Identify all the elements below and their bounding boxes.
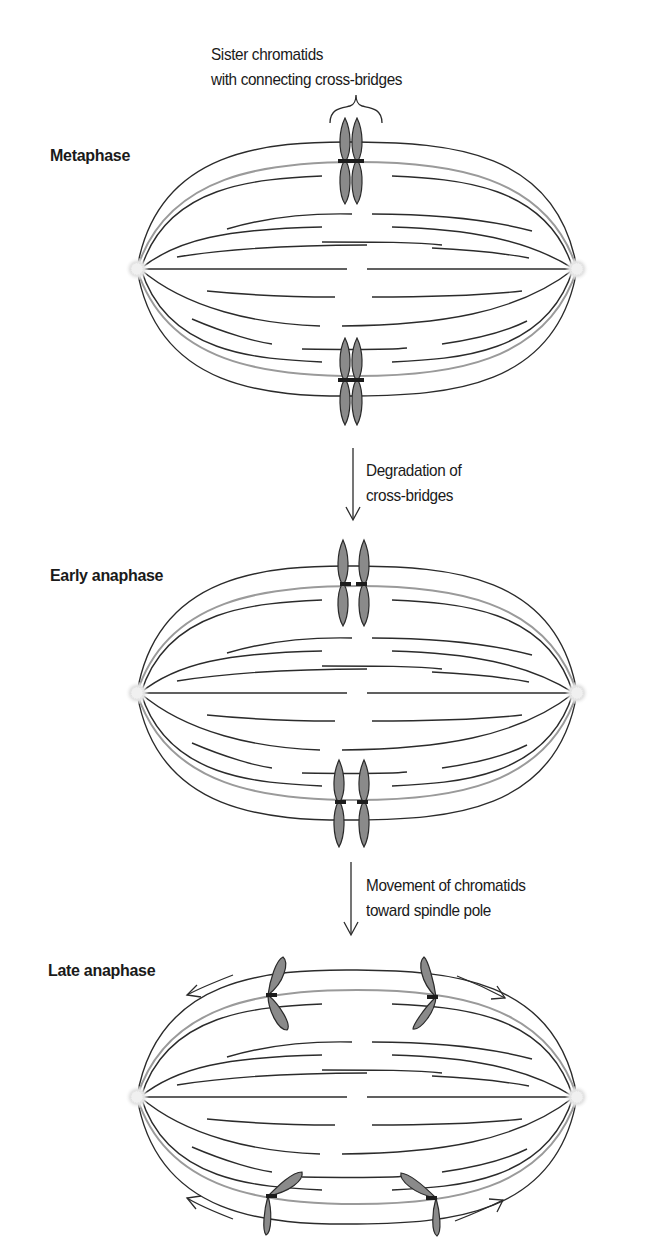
transition-2-line-1: Movement of chromatids <box>366 873 526 898</box>
down-arrow-icon <box>346 448 360 520</box>
spindle-pole-left <box>125 257 149 281</box>
chromatid-pair-top <box>338 118 364 204</box>
chromatid-lower-right <box>401 1173 440 1236</box>
sister-chromatids-annotation: Sister chromatids with connecting cross-… <box>211 42 402 92</box>
annotation-line-2: with connecting cross-bridges <box>211 67 402 92</box>
diagram-graphics <box>0 0 649 1260</box>
late-anaphase-spindle <box>125 970 589 1224</box>
spindle-pole-right <box>565 681 589 705</box>
transition-label-movement: Movement of chromatids toward spindle po… <box>366 873 526 923</box>
spindle-pole-left <box>125 681 149 705</box>
chromatid-pair-bottom <box>338 338 364 425</box>
spindle-pole-right <box>565 257 589 281</box>
early-anaphase-spindle <box>125 566 589 820</box>
annotation-line-1: Sister chromatids <box>211 42 402 67</box>
transition-1-line-1: Degradation of <box>366 458 461 483</box>
transition-1-line-2: cross-bridges <box>366 483 461 508</box>
stage-label-early-anaphase: Early anaphase <box>50 567 163 585</box>
down-arrow-icon <box>344 862 358 935</box>
chromatid-lower-left <box>264 1172 302 1235</box>
transition-label-degradation: Degradation of cross-bridges <box>366 458 461 508</box>
stage-label-metaphase: Metaphase <box>50 147 130 165</box>
separated-chromatids-top <box>338 540 369 626</box>
spindle-pole-left <box>125 1085 149 1109</box>
stage-label-late-anaphase: Late anaphase <box>48 962 155 980</box>
mitosis-diagram: Sister chromatids with connecting cross-… <box>0 0 649 1260</box>
transition-2-line-2: toward spindle pole <box>366 898 526 923</box>
spindle-pole-right <box>565 1085 589 1109</box>
arrow-right-up-icon <box>457 976 505 999</box>
